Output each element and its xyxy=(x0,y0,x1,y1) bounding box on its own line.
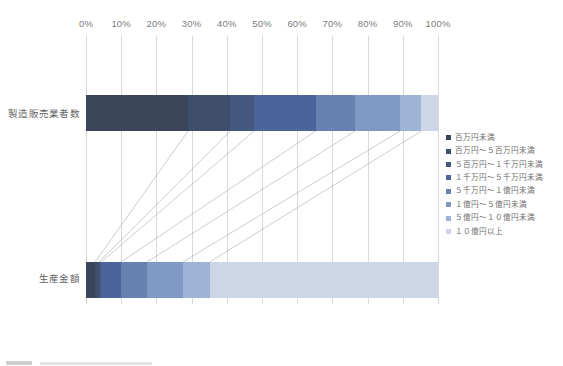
bar-segment xyxy=(101,262,121,298)
bar-production-value xyxy=(86,262,438,298)
bar-manufacturers xyxy=(86,95,438,131)
legend: 百万円未満百万円～５百万円未満５百万円～１千万円未満１千万円～５千万円未満５千万… xyxy=(446,131,561,238)
legend-item[interactable]: １千万円～５千万円未満 xyxy=(446,171,561,184)
bar-segment xyxy=(230,95,254,131)
bar-segment xyxy=(183,262,210,298)
legend-item[interactable]: ５億円～１０億円未満 xyxy=(446,211,561,224)
legend-item-label: １億円～５億円未満 xyxy=(455,201,528,209)
legend-item[interactable]: １億円～５億円未満 xyxy=(446,198,561,211)
bar-segment xyxy=(421,95,438,131)
legend-item[interactable]: 百万円～５百万円未満 xyxy=(446,144,561,157)
category-label-production-value: 生産金額 xyxy=(8,271,80,285)
axis-tick-label: 90% xyxy=(393,18,413,29)
legend-item-label: ５百万円～１千万円未満 xyxy=(455,161,544,169)
axis-tick-label: 50% xyxy=(252,18,272,29)
footer-artifact-line xyxy=(40,362,152,365)
gridline xyxy=(438,36,439,304)
legend-item-label: 百万円～５百万円未満 xyxy=(455,147,536,155)
axis-tick-label: 30% xyxy=(182,18,202,29)
bar-segment xyxy=(86,262,95,298)
legend-item-label: ５億円～１０億円未満 xyxy=(455,214,536,222)
axis-tick-label: 40% xyxy=(217,18,237,29)
category-label-manufacturers: 製造販売業者数 xyxy=(8,106,80,120)
axis-tick-label: 100% xyxy=(425,18,450,29)
legend-item-label: 百万円未満 xyxy=(455,134,496,142)
legend-swatch xyxy=(446,229,451,234)
legend-swatch xyxy=(446,189,451,194)
legend-swatch xyxy=(446,149,451,154)
axis-tick-label: 0% xyxy=(79,18,93,29)
footer-artifact-block xyxy=(6,361,32,365)
footer-artifact xyxy=(6,361,156,366)
legend-swatch xyxy=(446,175,451,180)
stacked-bar-chart: 0% 10% 20% 30% 40% 50% 60% 70% 80% 90% 1… xyxy=(0,0,563,366)
bar-segment xyxy=(316,95,355,131)
legend-item[interactable]: ５千万円～１億円未満 xyxy=(446,185,561,198)
bar-segment xyxy=(86,95,188,131)
bar-segment xyxy=(400,95,421,131)
legend-item[interactable]: １０億円以上 xyxy=(446,225,561,238)
bar-segment xyxy=(188,95,230,131)
bar-segment xyxy=(210,262,438,298)
bar-segment xyxy=(121,262,147,298)
legend-item[interactable]: 百万円未満 xyxy=(446,131,561,144)
axis-tick-label: 70% xyxy=(323,18,343,29)
legend-swatch xyxy=(446,202,451,207)
legend-item-label: １千万円～５千万円未満 xyxy=(455,174,544,182)
bar-segment xyxy=(147,262,183,298)
legend-swatch xyxy=(446,216,451,221)
bar-segment xyxy=(254,95,316,131)
axis-tick-label: 60% xyxy=(287,18,307,29)
axis-tick-label: 20% xyxy=(147,18,167,29)
legend-item[interactable]: ５百万円～１千万円未満 xyxy=(446,158,561,171)
axis-tick-label: 10% xyxy=(111,18,131,29)
legend-swatch xyxy=(446,162,451,167)
bar-segment xyxy=(355,95,400,131)
legend-item-label: ５千万円～１億円未満 xyxy=(455,187,536,195)
axis-tick-label: 80% xyxy=(358,18,378,29)
legend-swatch xyxy=(446,135,451,140)
legend-item-label: １０億円以上 xyxy=(455,228,504,236)
